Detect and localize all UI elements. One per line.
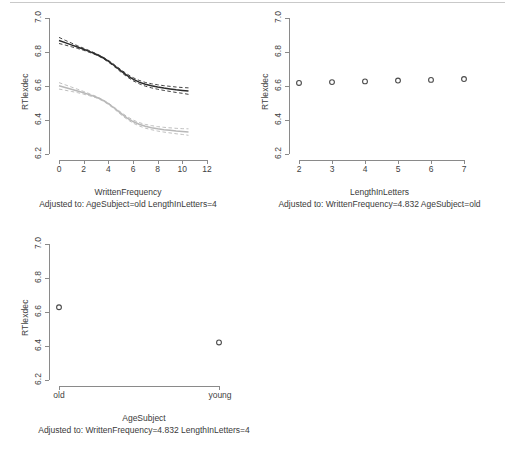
panel-written-frequency: RTlexdec 6.2 6.4 6.6 6.8 7.0 0 2 4 6 8 1… <box>0 0 256 222</box>
panel-caption-adjusted: Adjusted to: AgeSubject=old LengthInLett… <box>18 198 238 210</box>
panel-caption-title: LengthInLetters <box>250 186 509 198</box>
panel-caption: AgeSubject Adjusted to: WrittenFrequency… <box>18 412 270 436</box>
panel-caption-title: WrittenFrequency <box>18 186 238 198</box>
panel-length-in-letters: RTlexdec 6.2 6.4 6.6 6.8 7.0 2 3 4 5 6 7… <box>248 0 511 222</box>
panel-age-subject: RTlexdec 6.2 6.4 6.6 6.8 7.0 old young A… <box>0 224 300 449</box>
panel-caption: LengthInLetters Adjusted to: WrittenFreq… <box>250 186 509 210</box>
panel-caption-title: AgeSubject <box>18 412 270 424</box>
panel-caption-adjusted: Adjusted to: WrittenFrequency=4.832 Leng… <box>18 424 270 436</box>
panel-caption-adjusted: Adjusted to: WrittenFrequency=4.832 AgeS… <box>250 198 509 210</box>
panel-caption: WrittenFrequency Adjusted to: AgeSubject… <box>18 186 238 210</box>
